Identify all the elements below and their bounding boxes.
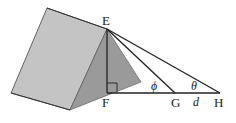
label-E: E (102, 13, 110, 28)
label-G: G (171, 95, 180, 110)
label-F: F (102, 95, 109, 110)
angle-theta-label: θ (191, 79, 197, 93)
length-d-label: d (193, 95, 200, 109)
angle-phi-label: ϕ (151, 79, 157, 93)
tent-prism-diagram: E F G H ϕ θ d (0, 0, 236, 123)
label-H: H (214, 95, 223, 110)
